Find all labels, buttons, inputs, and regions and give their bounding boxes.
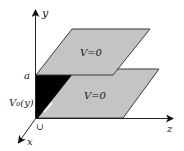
height-marker-a: a xyxy=(24,70,30,81)
y-axis-label: y xyxy=(41,7,49,20)
upper-plane-label: V=0 xyxy=(80,47,103,58)
lower-plane-label: V=0 xyxy=(84,90,107,101)
potential-label: V₀(y) xyxy=(9,97,34,108)
diagram-canvas: y z x a V₀(y) V=0 V=0 ∪ xyxy=(0,0,184,151)
origin-mark: ∪ xyxy=(36,122,44,132)
x-axis-label: x xyxy=(27,136,33,147)
z-axis-label: z xyxy=(166,123,173,134)
